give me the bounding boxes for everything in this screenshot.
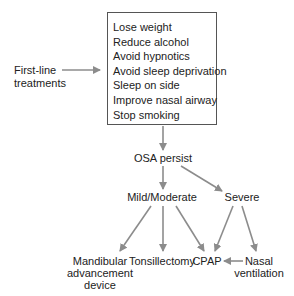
- treatment-item: Avoid hypnotics: [113, 49, 216, 64]
- arrow-severe-to-nasal: [242, 206, 256, 251]
- first-line-label-line2: treatments: [14, 77, 66, 90]
- osa-persist-node: OSA persist: [134, 152, 192, 165]
- treatment-item: Reduce alcohol: [113, 35, 216, 50]
- treatment-item: Avoid sleep deprivation: [113, 64, 216, 79]
- osa-treatment-flowchart: First-line treatments Lose weight Reduce…: [0, 0, 294, 296]
- treatment-item: Lose weight: [113, 20, 216, 35]
- nasal-ventilation-node: Nasal ventilation: [234, 255, 284, 279]
- mandibular-line3: device: [67, 279, 133, 291]
- mandibular-line2: advancement: [67, 267, 133, 279]
- first-line-treatments-box: Lose weight Reduce alcohol Avoid hypnoti…: [107, 12, 217, 125]
- severe-node: Severe: [225, 191, 260, 204]
- treatment-item: Sleep on side: [113, 78, 216, 93]
- nasal-line2: ventilation: [234, 267, 284, 279]
- arrow-osa-to-severe: [181, 166, 222, 191]
- mild-moderate-node: Mild/Moderate: [127, 191, 197, 204]
- mandibular-line1: Mandibular: [67, 255, 133, 267]
- first-line-label: First-line treatments: [14, 64, 66, 90]
- arrow-mild-to-cpap: [176, 206, 204, 251]
- tonsillectomy-node: Tonsillectomy: [129, 255, 195, 268]
- arrow-mild-to-mandibular: [120, 206, 151, 251]
- arrow-severe-to-cpap: [215, 206, 233, 251]
- first-line-label-line1: First-line: [14, 64, 66, 77]
- treatment-item: Improve nasal airway: [113, 93, 216, 108]
- treatment-item: Stop smoking: [113, 108, 216, 123]
- mandibular-device-node: Mandibular advancement device: [67, 255, 133, 291]
- cpap-node: CPAP: [192, 255, 221, 268]
- nasal-line1: Nasal: [234, 255, 284, 267]
